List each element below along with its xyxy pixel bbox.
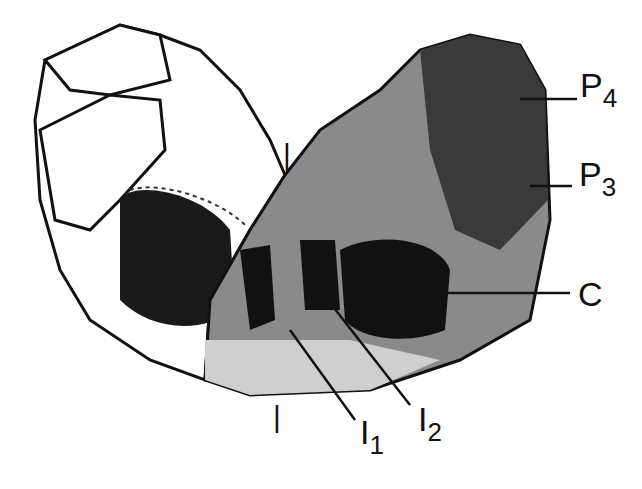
label-p3-main: P xyxy=(579,155,602,193)
label-p4-main: P xyxy=(580,66,603,104)
label-p3: P3 xyxy=(579,157,616,200)
label-c-main: C xyxy=(578,275,603,313)
jaw-illustration xyxy=(0,0,642,489)
label-p4-sub: 4 xyxy=(603,83,617,113)
label-p4: P4 xyxy=(580,68,617,111)
label-i2-sub: 2 xyxy=(427,417,441,447)
label-i1: I1 xyxy=(360,415,384,458)
molar-outline xyxy=(45,25,170,95)
label-c: C xyxy=(578,277,603,311)
label-i2: I2 xyxy=(418,402,442,445)
label-i1-sub: 1 xyxy=(369,430,383,460)
label-p3-sub: 3 xyxy=(602,172,616,202)
canine-socket-right xyxy=(340,240,450,339)
midline-mark-top: | xyxy=(283,140,291,170)
midline-mark-bottom: | xyxy=(273,402,281,432)
